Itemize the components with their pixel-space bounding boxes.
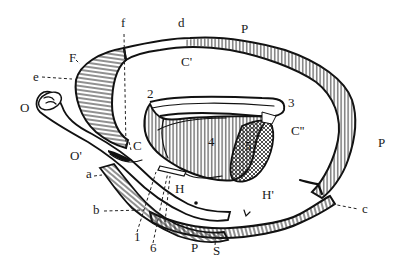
label-4: 4 [208, 134, 215, 149]
label-3: 3 [288, 95, 295, 110]
label-d: d [178, 15, 185, 30]
label-p-bottom: P [191, 240, 198, 255]
label-c: c [362, 201, 368, 216]
label-h-prime: H' [262, 187, 274, 202]
label-2: 2 [147, 86, 154, 101]
label-p-right: P [378, 135, 385, 150]
label-H: H [175, 181, 184, 196]
diagram-drawing: f d P F C' e O 2 3 4 5 C'' P C O' a H H'… [0, 0, 403, 275]
label-O: O [20, 100, 29, 115]
anatomical-diagram: f d P F C' e O 2 3 4 5 C'' P C O' a H H'… [0, 0, 403, 275]
label-1: 1 [134, 229, 141, 244]
label-6: 6 [150, 240, 157, 255]
label-5: 5 [245, 138, 252, 153]
label-b: b [93, 202, 100, 217]
label-c-prime: C' [181, 54, 192, 69]
label-C: C [133, 138, 142, 153]
label-a: a [86, 166, 92, 181]
label-e: e [33, 69, 39, 84]
label-S: S [213, 243, 220, 258]
label-f: f [121, 15, 126, 30]
label-p-top: P [241, 21, 248, 36]
label-c-double-prime: C'' [291, 123, 304, 138]
label-o-prime: O' [70, 148, 82, 163]
label-F: F [69, 50, 76, 65]
